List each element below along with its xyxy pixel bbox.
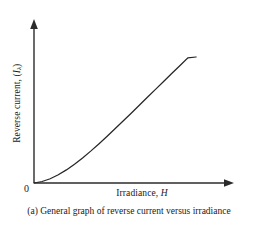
figure-container: Reverse current, (Iλ) Irradiance, H 0 (a… bbox=[0, 0, 258, 226]
origin-label: 0 bbox=[24, 183, 29, 194]
x-axis-label-text: Irradiance, bbox=[116, 188, 158, 198]
y-axis-label-text: Reverse current, ( bbox=[12, 73, 22, 143]
x-axis-label: Irradiance, H bbox=[96, 188, 188, 198]
figure-caption: (a) General graph of reverse current ver… bbox=[0, 206, 258, 216]
x-axis-label-symbol: H bbox=[161, 188, 168, 198]
y-axis-arrow-icon bbox=[30, 19, 38, 29]
y-axis-label-symbol: I bbox=[12, 70, 22, 73]
reverse-current-curve bbox=[34, 57, 196, 183]
y-axis-label: Reverse current, (Iλ) bbox=[12, 48, 23, 158]
y-axis-label-tail: ) bbox=[12, 64, 22, 67]
x-axis-arrow-icon bbox=[224, 179, 234, 187]
y-axis-label-subscript: λ bbox=[15, 67, 22, 70]
